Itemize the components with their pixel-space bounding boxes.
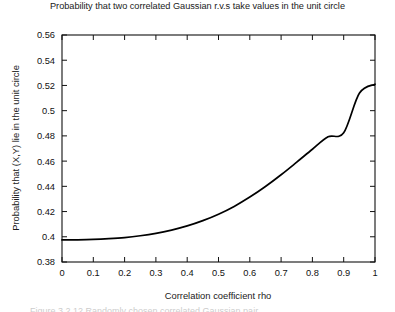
- y-axis-ticks: [62, 35, 375, 262]
- y-tick-label: 0.38: [37, 257, 55, 267]
- y-tick-label: 0.46: [37, 157, 55, 167]
- x-tick-label: 0: [59, 268, 64, 278]
- x-tick-label: 0.3: [149, 268, 162, 278]
- y-tick-label: 0.56: [37, 30, 55, 40]
- figure-container: Probability that two correlated Gaussian…: [0, 0, 395, 312]
- data-series-line: [62, 84, 375, 240]
- x-tick-label: 0.8: [306, 268, 319, 278]
- x-tick-label: 0.7: [275, 268, 288, 278]
- x-tick-label: 0.1: [87, 268, 100, 278]
- figure-caption-sliver: Figure 3.2.12 Randomly chosen correlated…: [30, 306, 280, 312]
- chart-plot-area: 0.380.40.420.440.460.480.50.520.540.56 0…: [0, 0, 395, 312]
- y-tick-label: 0.42: [37, 207, 55, 217]
- x-tick-label: 0.5: [212, 268, 225, 278]
- x-tick-label: 0.4: [181, 268, 194, 278]
- x-tick-label: 0.9: [337, 268, 350, 278]
- y-axis-tick-labels: 0.380.40.420.440.460.480.50.520.540.56: [37, 30, 55, 267]
- x-axis-label: Correlation coefficient rho: [165, 290, 272, 301]
- y-tick-label: 0.44: [37, 182, 55, 192]
- x-tick-label: 1: [372, 268, 377, 278]
- y-tick-label: 0.54: [37, 56, 55, 66]
- y-tick-label: 0.4: [42, 232, 55, 242]
- x-tick-label: 0.6: [243, 268, 256, 278]
- y-tick-label: 0.48: [37, 131, 55, 141]
- x-axis-tick-labels: 00.10.20.30.40.50.60.70.80.91: [59, 268, 377, 278]
- y-axis-label: Probability that (X,Y) lie in the unit c…: [10, 65, 21, 231]
- y-tick-label: 0.52: [37, 81, 55, 91]
- x-axis-ticks: [62, 35, 375, 262]
- x-tick-label: 0.2: [118, 268, 131, 278]
- y-tick-label: 0.5: [42, 106, 55, 116]
- plot-frame: [62, 35, 375, 262]
